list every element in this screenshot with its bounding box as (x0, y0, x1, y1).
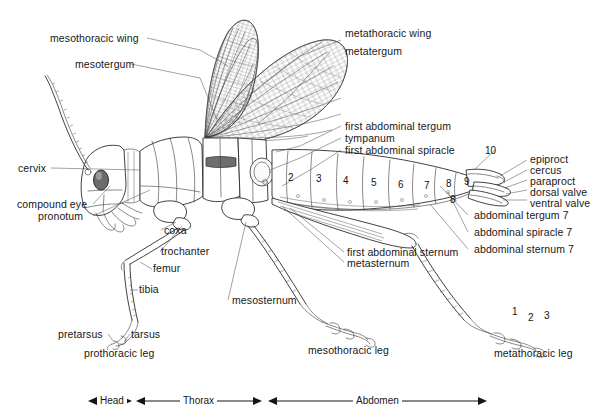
label-mesotergum: mesotergum (75, 59, 134, 70)
label-abdominal-tergum-7: abdominal tergum 7 (474, 210, 569, 221)
segment-number-8: 8 (446, 178, 452, 189)
tarsal-segment-number-1: 1 (512, 306, 518, 317)
label-compound-eye: compound eye (17, 199, 87, 210)
label-abdominal-sternum-7: abdominal sternum 7 (474, 244, 574, 255)
label-tarsus: tarsus (131, 329, 160, 340)
label-cervix: cervix (18, 163, 46, 174)
region-label-head: Head (97, 395, 127, 406)
segment-number-4: 4 (343, 175, 349, 186)
label-tibia: tibia (139, 284, 159, 295)
label-metasternum: metasternum (347, 258, 409, 269)
region-label-thorax: Thorax (180, 395, 217, 406)
segment-number-6: 6 (398, 179, 404, 190)
label-metathoracic-leg: metathoracic leg (494, 348, 573, 359)
label-tympanum: tympanum (345, 133, 395, 144)
segment-number-5: 5 (371, 177, 377, 188)
label-femur: femur (153, 263, 180, 274)
tarsal-segment-number-2: 2 (528, 312, 534, 323)
label-mesothoracic-wing: mesothoracic wing (50, 33, 139, 44)
label-coxa: coxa (164, 225, 187, 236)
label-mesosternum: mesosternum (232, 295, 297, 306)
label-ventral-valve: ventral valve (530, 198, 590, 209)
label-metathoracic-wing: metathoracic wing (345, 28, 431, 39)
segment-number-9: 9 (464, 176, 470, 187)
label-pronotum: pronotum (38, 211, 83, 222)
label-first-abdominal-tergum: first abdominal tergum (345, 121, 451, 132)
segment-number-3: 3 (316, 173, 322, 184)
terminal-abdomen-shape (466, 169, 510, 206)
cervix-shape (124, 149, 140, 203)
label-pretarsus: pretarsus (58, 329, 103, 340)
figure-canvas: .ln { fill:none; stroke:#2b2b2b; stroke-… (0, 0, 603, 420)
region-label-abdomen: Abdomen (353, 395, 402, 406)
segment-number-2: 2 (288, 172, 294, 183)
compound-eye-shape (94, 170, 109, 190)
metathoracic-leg-shape (272, 198, 545, 357)
thorax-plates-shape (203, 138, 282, 202)
segment-number-7: 7 (424, 180, 430, 191)
label-first-abdominal-spiracle: first abdominal spiracle (345, 145, 455, 156)
body-region-scale-bar (88, 397, 487, 405)
label-abdominal-spiracle-7: abdominal spiracle 7 (474, 227, 572, 238)
label-prothoracic-leg: prothoracic leg (84, 348, 154, 359)
label-trochanter: trochanter (161, 246, 209, 257)
label-mesothoracic-leg: mesothoracic leg (308, 345, 389, 356)
sternum-number-8: 8 (450, 194, 456, 205)
tarsal-segment-number-3: 3 (544, 310, 550, 321)
label-metatergum: metatergum (345, 46, 402, 57)
segment-number-10: 10 (485, 145, 496, 156)
pronotum-shape (140, 137, 203, 207)
